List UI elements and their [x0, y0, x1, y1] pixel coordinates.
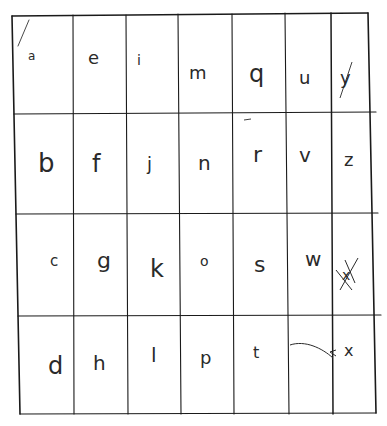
letter-cell: t	[253, 343, 259, 362]
letter-cell: l	[151, 343, 157, 367]
letter-cell: s	[254, 252, 265, 277]
letter-cell: z	[344, 149, 353, 170]
letter-cell: d	[48, 352, 63, 380]
letter-cell: k	[150, 255, 164, 283]
grid-line-col2	[126, 15, 128, 414]
letter-cell: e	[88, 47, 99, 68]
letter-cell: c	[50, 252, 58, 270]
arrow-icon	[290, 343, 336, 358]
grid-line-top	[12, 13, 368, 16]
letter-cell: g	[97, 248, 111, 273]
letter-cell: p	[200, 347, 211, 368]
letter-cell: i	[137, 52, 141, 68]
grid-line-bottom	[20, 413, 376, 414]
letter-cell: f	[92, 150, 101, 178]
letter-grid-sheet: a b c d e f g h i j k l m n o p q r s t …	[0, 0, 387, 426]
letter-cell: u	[299, 67, 310, 88]
grid-line-row1	[14, 112, 376, 114]
letter-cell: n	[198, 151, 211, 175]
letter-cell: b	[38, 148, 55, 178]
letter-cell: r	[253, 142, 263, 167]
letter-cell: v	[299, 143, 311, 167]
letter-cell: x	[344, 341, 353, 360]
letter-cell: w	[305, 247, 321, 271]
grid-line-row3	[18, 315, 381, 316]
letter-cell: o	[200, 253, 209, 269]
stray-mark	[18, 20, 29, 46]
letter-cell: h	[93, 351, 106, 375]
letter-cell: a	[28, 49, 35, 63]
letter-cell: q	[249, 60, 264, 88]
r-overmark	[244, 119, 251, 120]
grid-line-left	[12, 16, 20, 414]
grid-line-row2	[16, 213, 378, 214]
grid-line-col1	[73, 15, 74, 414]
letter-cell: j	[146, 153, 152, 174]
letter-cell: m	[189, 62, 207, 83]
